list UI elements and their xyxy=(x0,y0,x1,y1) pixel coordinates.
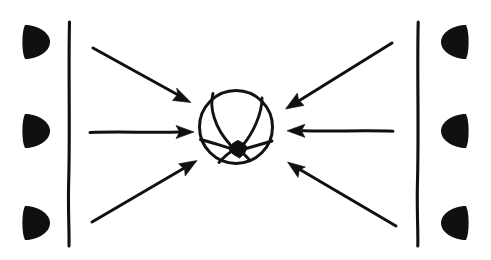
arrow-lower-left xyxy=(92,161,197,223)
arrow-lower-right-shaft xyxy=(299,169,396,226)
arrow-upper-right-shaft xyxy=(297,43,392,102)
arrow-lower-right xyxy=(288,162,397,226)
right-marker-top xyxy=(441,25,469,59)
right-marker-group xyxy=(441,25,469,240)
diagram-canvas xyxy=(0,0,491,260)
seam-top-left xyxy=(212,94,230,145)
arrow-middle-left xyxy=(90,125,194,138)
arrow-upper-right xyxy=(286,43,393,109)
right-boundary-line xyxy=(417,22,418,246)
arrow-upper-left-head xyxy=(173,88,192,103)
left-marker-top xyxy=(22,25,50,59)
arrow-lower-left-shaft xyxy=(92,167,186,222)
arrow-middle-right xyxy=(287,124,393,137)
arrow-upper-left-shaft xyxy=(93,48,180,96)
left-marker-group xyxy=(22,25,50,240)
left-marker-bottom xyxy=(22,206,50,240)
left-marker-middle xyxy=(22,114,50,148)
right-marker-middle xyxy=(441,114,469,148)
arrow-upper-left xyxy=(93,48,191,103)
figure-root xyxy=(0,0,491,260)
left-boundary-line xyxy=(68,22,69,246)
right-marker-bottom xyxy=(441,206,469,240)
seam-top-right xyxy=(243,98,262,145)
central-sphere xyxy=(200,91,273,164)
